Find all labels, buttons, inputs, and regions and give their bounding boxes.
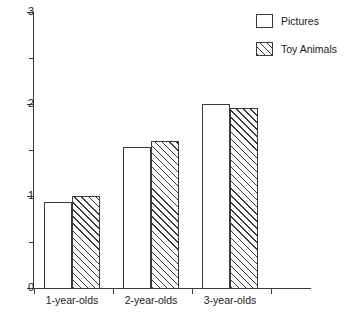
y-axis-tick-minor — [29, 58, 34, 59]
bar-pictures-2-year-olds — [123, 147, 151, 289]
bar-toy-animals-3-year-olds — [230, 108, 258, 289]
y-axis-tick-minor — [29, 242, 34, 243]
legend-label-pictures: Pictures — [281, 15, 319, 27]
legend-item-pictures: Pictures — [256, 14, 342, 28]
bar-toy-animals-2-year-olds — [151, 141, 179, 289]
legend-swatch-toy-animals-icon — [256, 42, 273, 56]
bar-chart: 0123 1-year-olds2-year-olds3-year-olds P… — [0, 0, 344, 312]
bar-toy-animals-1-year-olds — [72, 196, 100, 289]
x-axis-tick-label: 3-year-olds — [190, 294, 270, 306]
x-axis-tick-label: 2-year-olds — [111, 294, 191, 306]
legend-swatch-pictures-icon — [256, 14, 273, 28]
y-axis-tick-label: 1 — [14, 190, 34, 201]
y-axis-tick-label: 3 — [14, 6, 34, 17]
x-axis-tick — [271, 288, 272, 294]
bar-pictures-1-year-olds — [44, 202, 72, 289]
legend-item-toy-animals: Toy Animals — [256, 42, 342, 56]
legend: Pictures Toy Animals — [256, 14, 342, 70]
legend-label-toy-animals: Toy Animals — [281, 43, 337, 55]
y-axis-tick-label: 0 — [14, 282, 34, 293]
y-axis-tick-minor — [29, 150, 34, 151]
bar-pictures-3-year-olds — [202, 104, 230, 289]
x-axis-tick-label: 1-year-olds — [32, 294, 112, 306]
y-axis-tick-label: 2 — [14, 98, 34, 109]
